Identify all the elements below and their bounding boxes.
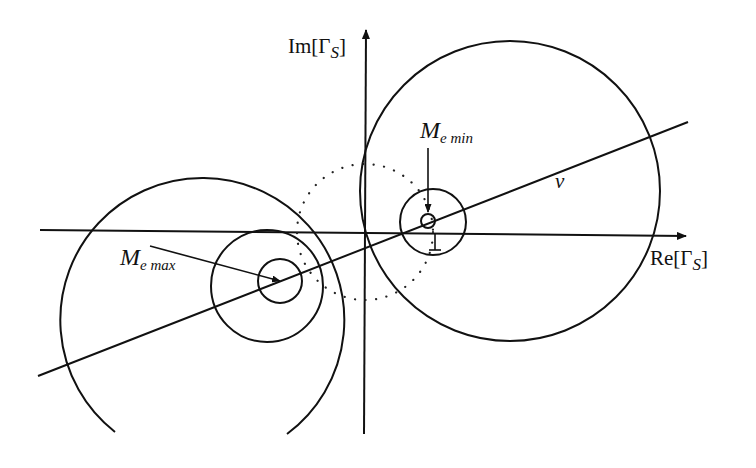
- imag-axis-label: Im[ΓS]: [288, 34, 346, 62]
- left-large-circle-arc: [60, 178, 344, 434]
- smith-mismatch-diagram: Im[ΓS] Re[ΓS] v Me min Me max: [0, 0, 756, 468]
- m-min-label: Me min: [419, 117, 473, 146]
- real-axis: [40, 230, 686, 236]
- line-v-label: v: [555, 169, 565, 193]
- real-axis-label: Re[ΓS]: [650, 246, 708, 274]
- m-max-label: Me max: [119, 244, 176, 273]
